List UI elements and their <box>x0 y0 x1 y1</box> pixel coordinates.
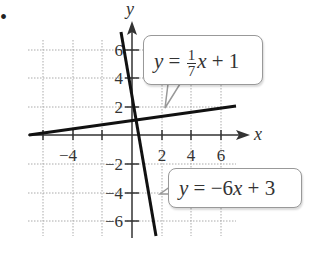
x-tick-label: −4 <box>59 146 78 165</box>
eq2-lhs: y <box>179 176 188 200</box>
y-tick-labels: 6 4 2 −2 −4 −6 <box>105 41 124 231</box>
y-tick-label: −2 <box>105 155 123 174</box>
y-axis-label: y <box>124 0 134 19</box>
x-tick-label: 6 <box>217 146 226 165</box>
x-tick-label: 4 <box>187 146 196 165</box>
y-tick-label: 4 <box>115 69 124 88</box>
callout1-pointer <box>165 84 180 108</box>
x-axis-label: x <box>253 124 262 144</box>
eq2-var: x <box>233 176 242 200</box>
callout-line1-equation: y = 17x + 1 <box>143 35 263 85</box>
eq1-numerator: 1 <box>187 48 197 64</box>
x-tick-label: 2 <box>158 146 167 165</box>
eq1-denominator: 7 <box>187 64 197 79</box>
eq1-equals: = <box>163 49 185 73</box>
y-tick-label: 2 <box>115 98 124 117</box>
callout-line2-equation: y = −6x + 3 <box>168 168 302 208</box>
eq2-equals: = −6 <box>188 176 233 200</box>
eq2-rest: + 3 <box>242 176 275 200</box>
eq1-lhs: y <box>154 49 163 73</box>
eq1-rest: + 1 <box>207 49 240 73</box>
eq1-var: x <box>197 49 206 73</box>
y-tick-label: −6 <box>105 212 123 231</box>
eq1-fraction: 17 <box>187 48 197 79</box>
y-tick-label: −4 <box>105 184 124 203</box>
